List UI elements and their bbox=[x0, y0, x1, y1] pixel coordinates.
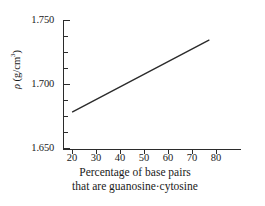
x-axis-title-line1: Percentage of base pairs bbox=[20, 166, 250, 180]
x-axis-title-line2: that are guanosine·cytosine bbox=[20, 180, 250, 194]
x-axis-title: Percentage of base pairs that are guanos… bbox=[20, 166, 250, 193]
figure-container: 1.750 1.700 1.650 20 30 40 50 60 70 80 ρ… bbox=[0, 0, 265, 206]
data-line-density bbox=[73, 40, 209, 112]
